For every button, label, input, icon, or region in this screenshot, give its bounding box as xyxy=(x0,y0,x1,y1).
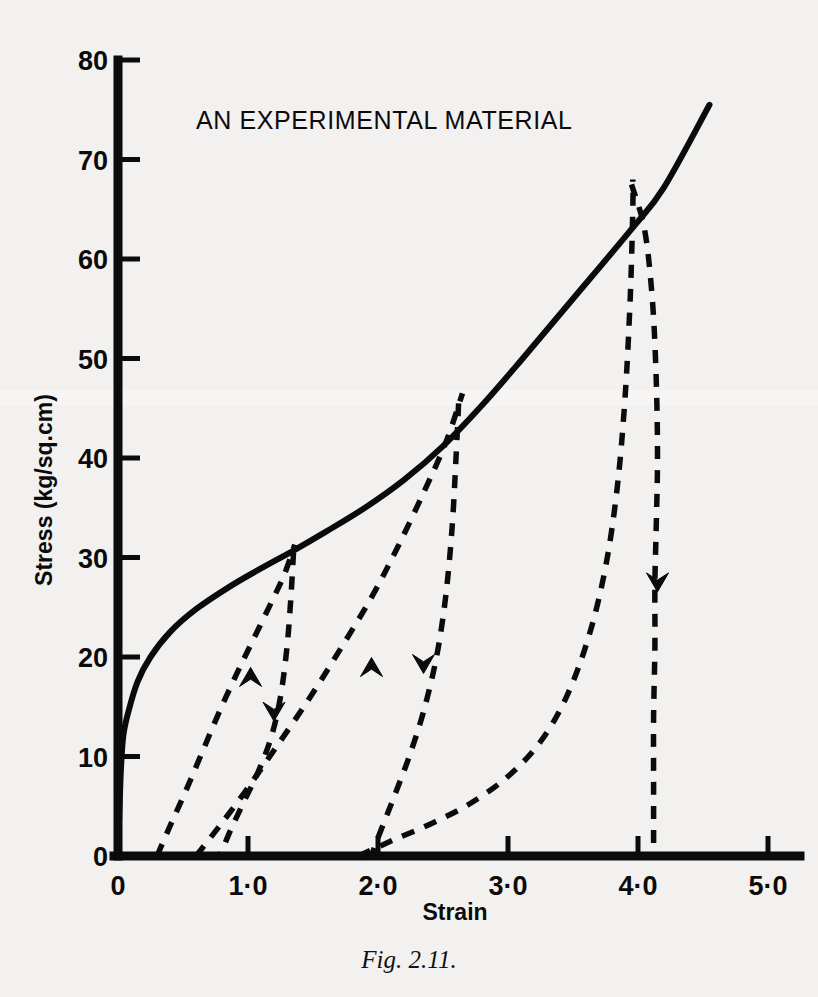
chart-title: AN EXPERIMENTAL MATERIAL xyxy=(196,106,573,134)
x-tick-label-3: 3·0 xyxy=(488,871,527,901)
scan-artifact-band xyxy=(0,390,818,406)
y-tick-label-10: 10 xyxy=(78,743,108,773)
x-tick-label-2: 2·0 xyxy=(358,871,397,901)
figure-caption: Fig. 2.11. xyxy=(360,946,456,973)
y-tick-label-60: 60 xyxy=(78,245,108,275)
y-axis-tick-labels: 01020304050607080 xyxy=(78,46,108,872)
figure-root: 01020304050607080 01·02·03·04·05·0 AN EX… xyxy=(0,0,818,997)
y-tick-label-70: 70 xyxy=(78,146,108,176)
y-tick-label-50: 50 xyxy=(78,345,108,375)
stress-strain-chart: 01020304050607080 01·02·03·04·05·0 AN EX… xyxy=(0,0,818,997)
x-tick-label-4: 4·0 xyxy=(618,871,657,901)
y-tick-label-0: 0 xyxy=(93,842,108,872)
x-tick-label-0: 0 xyxy=(110,871,125,901)
chart-background xyxy=(0,0,818,997)
y-tick-label-80: 80 xyxy=(78,46,108,76)
x-tick-label-1: 1·0 xyxy=(228,871,267,901)
x-tick-label-5: 5·0 xyxy=(748,871,787,901)
y-axis-title: Stress (kg/sq.cm) xyxy=(31,394,57,586)
y-tick-label-30: 30 xyxy=(78,544,108,574)
y-tick-label-20: 20 xyxy=(78,643,108,673)
y-tick-label-40: 40 xyxy=(78,444,108,474)
x-axis-title: Strain xyxy=(422,899,487,925)
